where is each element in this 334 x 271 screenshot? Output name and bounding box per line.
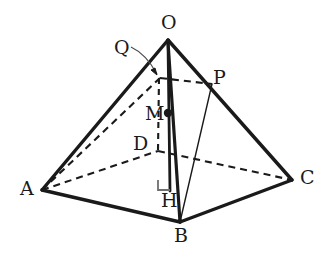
dashed-edge-group xyxy=(42,78,292,190)
point-marker-M xyxy=(164,109,172,117)
vertex-label-C: C xyxy=(300,168,315,187)
segment-PB xyxy=(180,84,212,222)
geometry-figure: O Q P M D A C H B xyxy=(0,0,334,271)
edge-AB xyxy=(42,190,180,222)
edge-OC xyxy=(168,40,292,180)
vertex-label-P: P xyxy=(213,68,226,87)
pyramid-drawing-canvas xyxy=(0,0,334,271)
vertex-dot-O xyxy=(166,39,170,43)
vertex-label-D: D xyxy=(133,134,148,153)
vertex-label-H: H xyxy=(161,191,178,210)
vertex-label-M: M xyxy=(145,104,164,123)
vertex-label-B: B xyxy=(174,226,188,245)
edge-BC xyxy=(180,180,292,222)
leader-arrowhead-Q xyxy=(151,68,157,75)
vertex-dot-B xyxy=(178,219,182,223)
vertex-label-A: A xyxy=(20,179,34,198)
vertex-label-O: O xyxy=(161,13,177,32)
vertex-label-Q: Q xyxy=(114,38,130,57)
